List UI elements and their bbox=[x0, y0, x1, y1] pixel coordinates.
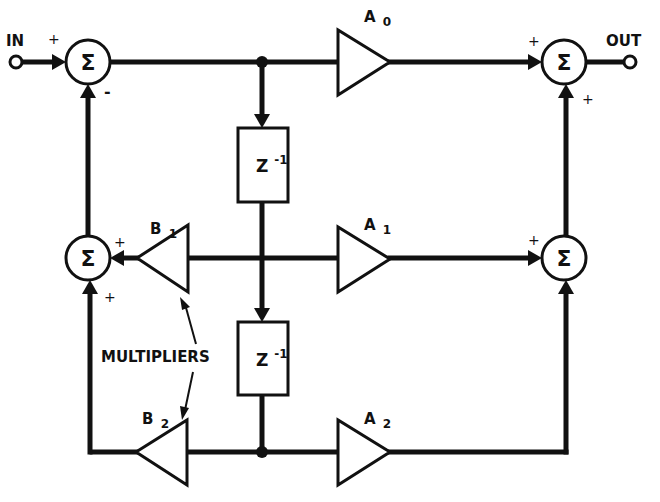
arrow-icon bbox=[80, 84, 96, 98]
delay-exponent: -1 bbox=[274, 347, 287, 361]
multiplier-label: A 1 bbox=[364, 216, 391, 237]
sign-minus: - bbox=[104, 82, 111, 101]
label-subscript: 0 bbox=[383, 15, 391, 29]
arrow-icon bbox=[528, 250, 542, 266]
label-base: A bbox=[364, 216, 376, 234]
label-base: A bbox=[364, 8, 376, 26]
label-subscript: 2 bbox=[383, 417, 391, 431]
output-node-icon bbox=[624, 56, 636, 68]
label-subscript: 2 bbox=[161, 417, 169, 431]
multipliers-annotation: MULTIPLIERS bbox=[101, 297, 210, 420]
multiplier-label: A 2 bbox=[364, 410, 391, 431]
multiplier-label: B 1 bbox=[150, 220, 177, 241]
multiplier-b2: B 2 bbox=[136, 410, 187, 485]
sigma-icon: Σ bbox=[556, 246, 571, 271]
amplifier-triangle-icon bbox=[338, 30, 390, 95]
delay-z: Z bbox=[256, 156, 268, 176]
arrow-icon bbox=[52, 54, 66, 70]
sigma-icon: Σ bbox=[80, 50, 95, 75]
label-subscript: 1 bbox=[383, 223, 391, 237]
output-label: OUT bbox=[606, 32, 642, 50]
input-label: IN bbox=[6, 32, 24, 50]
delay-exponent: -1 bbox=[274, 153, 287, 167]
multiplier-a2: A 2 bbox=[338, 410, 391, 485]
delay-block-1: Z -1 bbox=[238, 128, 288, 202]
filter-block-diagram: IN OUT Σ + - Σ + + Σ + + Σ + Z -1 bbox=[0, 0, 660, 502]
delay-block-2: Z -1 bbox=[238, 322, 288, 395]
multiplier-label: B 2 bbox=[142, 410, 169, 431]
label-base: B bbox=[142, 410, 153, 428]
sign-plus: + bbox=[528, 33, 540, 49]
arrow-icon bbox=[558, 280, 574, 294]
sign-plus: + bbox=[528, 232, 540, 248]
sign-plus: + bbox=[582, 91, 594, 107]
annotation-label: MULTIPLIERS bbox=[101, 348, 210, 366]
arrow-icon bbox=[82, 280, 98, 294]
multiplier-b1: B 1 bbox=[137, 220, 188, 292]
arrow-icon bbox=[558, 84, 574, 98]
pointer-line bbox=[185, 304, 196, 344]
feedback-summer: Σ + + bbox=[66, 234, 126, 305]
pointer-line bbox=[185, 372, 193, 410]
label-base: B bbox=[150, 220, 161, 238]
multiplier-label: A 0 bbox=[364, 8, 391, 29]
sigma-icon: Σ bbox=[80, 246, 95, 271]
arrow-icon bbox=[528, 54, 542, 70]
sign-plus: + bbox=[48, 31, 60, 47]
multiplier-a0: A 0 bbox=[338, 8, 391, 95]
sign-plus: + bbox=[104, 289, 116, 305]
pointer-arrow-icon bbox=[180, 297, 190, 310]
label-base: A bbox=[364, 410, 376, 428]
input-node-icon bbox=[10, 56, 22, 68]
multiplier-a1: A 1 bbox=[338, 216, 391, 292]
delay-z: Z bbox=[256, 350, 268, 370]
sign-plus: + bbox=[114, 234, 126, 250]
sigma-icon: Σ bbox=[556, 50, 571, 75]
arrow-icon bbox=[254, 114, 270, 128]
input-terminal: IN bbox=[6, 32, 24, 68]
label-subscript: 1 bbox=[169, 227, 177, 241]
arrow-icon bbox=[110, 250, 124, 266]
wires bbox=[22, 54, 624, 458]
arrow-icon bbox=[254, 308, 270, 322]
